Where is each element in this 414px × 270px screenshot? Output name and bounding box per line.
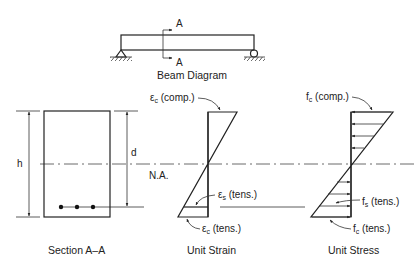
neutral-axis-label: N.A. (149, 170, 168, 181)
dimension-h-label: h (17, 158, 23, 169)
strain-steel-leader (196, 195, 215, 205)
dimension-d (114, 111, 138, 206)
section-cut-marker (163, 30, 172, 58)
stress-caption: Unit Stress (328, 244, 379, 256)
rebar (75, 205, 79, 209)
stress-comp-label: fc (comp.) (306, 91, 349, 103)
strain-tens-label: εc (tens.) (202, 223, 241, 235)
roller-support-icon (244, 50, 265, 61)
dimension-d-label: d (131, 147, 137, 158)
stress-comp-leader (352, 97, 372, 110)
rebar (91, 205, 95, 209)
section-label-bottom: A (176, 57, 183, 68)
section-caption: Section A–A (48, 244, 105, 256)
strain-comp-leader (198, 98, 220, 110)
rebar (59, 205, 63, 209)
strain-comp-label: εc (comp.) (150, 92, 195, 104)
strain-tens-leader (187, 219, 200, 229)
stress-steel-label: fs (tens.) (362, 196, 399, 208)
beam-diagram-caption: Beam Diagram (157, 69, 227, 81)
pin-support-icon (110, 50, 132, 61)
strain-caption: Unit Strain (187, 244, 236, 256)
section-a-a: h d Section A–A (16, 111, 138, 256)
stress-tens-leader (330, 220, 351, 229)
strain-steel-label: εs (tens.) (218, 189, 257, 201)
stress-tens-label: fc (tens.) (353, 223, 390, 235)
beam-body (121, 35, 254, 50)
section-label-top: A (176, 18, 183, 29)
beam-diagram: A A Beam Diagram (110, 18, 265, 81)
unit-stress-diagram: fc (comp.) fs (tens.) fc (tens.) Unit St… (306, 91, 399, 256)
stress-steel-leader (336, 200, 360, 203)
reinforced-beam-diagram: A A Beam Diagram N.A. h d Section A–A (0, 0, 414, 270)
